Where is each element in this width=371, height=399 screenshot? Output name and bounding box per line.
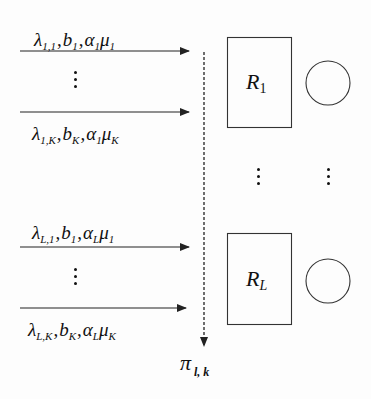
flow-label-L-1: λL,1,b1,αLμ1 (32, 223, 114, 245)
server-circle-L (306, 259, 350, 303)
flow-ellipsis-group-L (74, 268, 78, 289)
flow-label-L-K: λL,K,bK,αLμK (28, 320, 116, 342)
policy-label: πl, k (180, 352, 209, 378)
flow-ellipsis-group-1 (74, 71, 78, 92)
flow-label-1-1: λ1,1,b1,α1μ1 (34, 30, 115, 52)
flow-label-1-K: λ1,K,bK,α1μK (32, 124, 119, 146)
queueing-diagram: λ1,1,b1,α1μ1 λ1,K,bK,α1μK λL,1,b1,αLμ1 λ… (0, 0, 371, 399)
resource-label-1: R1 (246, 71, 266, 96)
server-ellipsis (327, 168, 331, 189)
resource-label-L: RL (246, 268, 267, 293)
resource-ellipsis (257, 168, 261, 189)
server-circle-1 (306, 61, 350, 105)
